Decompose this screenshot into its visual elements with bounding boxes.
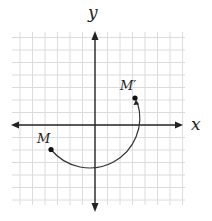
coordinate-plane [0, 0, 212, 221]
y-axis-label: y [88, 2, 98, 22]
y-axis-down-arrow-icon [92, 203, 99, 212]
point-m-prime [132, 95, 137, 100]
x-axis-label: x [191, 114, 201, 134]
point-m-prime-label: M′ [120, 78, 136, 93]
y-axis [92, 31, 99, 212]
x-axis-right-arrow-icon [175, 122, 183, 129]
x-axis-left-arrow-icon [11, 122, 19, 129]
grid [12, 32, 185, 205]
point-m [48, 147, 53, 152]
y-axis-up-arrow-icon [92, 31, 99, 40]
point-m-label: M [37, 131, 50, 146]
